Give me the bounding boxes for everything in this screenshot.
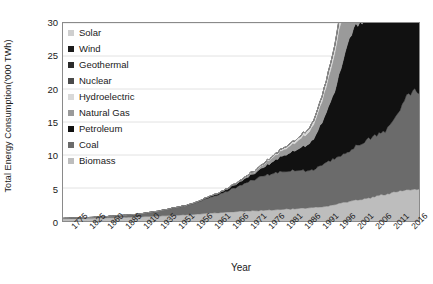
y-axis-tick-label: 10	[30, 150, 58, 161]
legend-swatch-icon	[68, 94, 74, 100]
y-axis-tick-label: 0	[30, 217, 58, 228]
legend-item[interactable]: Petroleum	[68, 121, 134, 136]
legend-swatch-icon	[68, 110, 74, 116]
y-axis-tick-label: 20	[30, 83, 58, 94]
legend-swatch-icon	[68, 78, 74, 84]
legend-item-label: Natural Gas	[79, 107, 130, 118]
legend-swatch-icon	[68, 126, 74, 132]
legend-item-label: Petroleum	[79, 123, 122, 134]
legend-swatch-icon	[68, 158, 74, 164]
legend-item[interactable]: Geothermal	[68, 57, 134, 72]
y-axis-title-text: Total Energy Consumption('000 TWh)	[3, 39, 13, 192]
legend-swatch-icon	[68, 30, 74, 36]
legend-swatch-icon	[68, 62, 74, 68]
legend-item[interactable]: Nuclear	[68, 73, 134, 88]
x-axis-title: Year	[62, 262, 420, 273]
legend-item-label: Geothermal	[79, 59, 129, 70]
y-axis-tick-label: 5	[30, 183, 58, 194]
y-axis-tick-labels: 051015202530	[28, 0, 58, 232]
legend-item[interactable]: Biomass	[68, 153, 134, 168]
legend-item[interactable]: Solar	[68, 25, 134, 40]
y-axis-title: Total Energy Consumption('000 TWh)	[0, 0, 17, 232]
y-axis-tick-label: 30	[30, 17, 58, 28]
legend-swatch-icon	[68, 142, 74, 148]
legend-item-label: Nuclear	[79, 75, 112, 86]
legend-item-label: Hydroelectric	[79, 91, 134, 102]
legend-item-label: Biomass	[79, 155, 115, 166]
x-axis-tick-labels: 1775182518601885191019351951195619611966…	[62, 224, 420, 260]
legend-swatch-icon	[68, 46, 74, 52]
legend-item[interactable]: Wind	[68, 41, 134, 56]
y-axis-tick-label: 25	[30, 50, 58, 61]
legend-item-label: Solar	[79, 27, 101, 38]
legend-item[interactable]: Natural Gas	[68, 105, 134, 120]
chart-legend: SolarWindGeothermalNuclearHydroelectricN…	[68, 25, 134, 168]
legend-item-label: Wind	[79, 43, 101, 54]
legend-item[interactable]: Coal	[68, 137, 134, 152]
legend-item-label: Coal	[79, 139, 99, 150]
legend-item[interactable]: Hydroelectric	[68, 89, 134, 104]
stacked-area-chart: Total Energy Consumption('000 TWh) 05101…	[0, 0, 433, 284]
y-axis-tick-label: 15	[30, 117, 58, 128]
